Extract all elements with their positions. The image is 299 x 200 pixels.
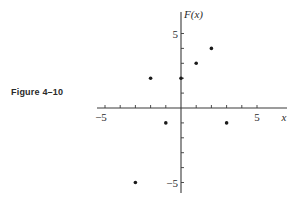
x-tick-label: −5 bbox=[95, 111, 107, 123]
data-point bbox=[149, 76, 153, 80]
axes bbox=[97, 12, 287, 193]
y-tick-label: 5 bbox=[173, 28, 179, 40]
data-point bbox=[164, 121, 168, 125]
y-tick-label: −5 bbox=[166, 177, 178, 189]
data-point bbox=[179, 76, 183, 80]
data-point bbox=[194, 62, 198, 66]
y-axis-title: F(x) bbox=[183, 8, 203, 21]
data-point bbox=[225, 121, 229, 125]
x-axis-title: x bbox=[281, 111, 287, 123]
data-point bbox=[210, 47, 214, 51]
x-tick-label: 5 bbox=[254, 111, 260, 123]
axis-labels: −555−5xF(x) bbox=[95, 8, 286, 189]
scatter-chart: −555−5xF(x) bbox=[0, 0, 299, 200]
data-point bbox=[134, 181, 138, 185]
